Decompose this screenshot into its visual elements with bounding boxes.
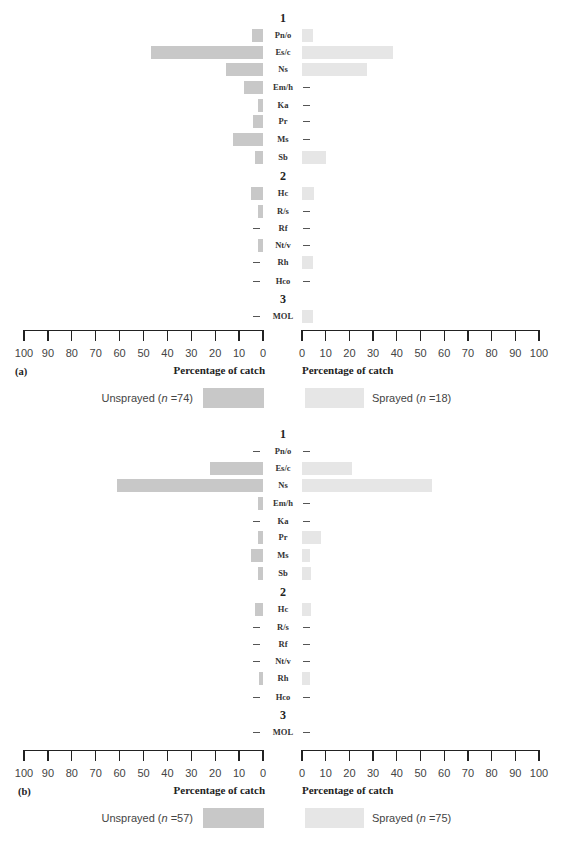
- category-label: Hco: [264, 273, 302, 289]
- bar-unsprayed: [258, 531, 263, 544]
- legend-swatch-sprayed: [305, 388, 364, 408]
- bar-unsprayed: [233, 133, 263, 146]
- x-axis-title-left: Percentage of catch: [174, 364, 265, 376]
- chart-row-rh: Rh: [0, 670, 564, 686]
- category-label: Em/h: [264, 495, 302, 511]
- legend-swatch-unsprayed: [203, 388, 264, 408]
- legend-label-sprayed: Sprayed (n =75): [372, 812, 451, 824]
- bar-sprayed: [302, 310, 313, 323]
- x-axis-left: 1009080706050403020100: [24, 330, 263, 350]
- tick-mark: [95, 330, 96, 341]
- tick-mark: [325, 750, 326, 761]
- zero-dash-sprayed: [303, 521, 310, 522]
- category-label: Ns: [264, 61, 302, 77]
- chart-row-es-c: Es/c: [0, 44, 564, 60]
- zero-dash-sprayed: [303, 105, 310, 106]
- legend-label-sprayed: Sprayed (n =18): [372, 392, 451, 404]
- bar-unsprayed: [244, 81, 263, 94]
- chart-row-rf: Rf: [0, 220, 564, 236]
- tick-mark: [119, 750, 120, 761]
- chart-row-hc: Hc: [0, 601, 564, 617]
- category-label: Sb: [264, 149, 302, 165]
- tick-mark: [491, 330, 492, 341]
- tick-mark: [47, 750, 48, 761]
- legend-prefix: Sprayed (: [372, 812, 420, 824]
- category-label: Em/h: [264, 79, 302, 95]
- category-label: Hc: [264, 185, 302, 201]
- chart-row-hc: Hc: [0, 185, 564, 201]
- tick-mark: [396, 330, 397, 341]
- x-axis-title-right: Percentage of catch: [302, 784, 393, 796]
- chart-panel-b: 1Pn/oEs/cNsEm/hKaPrMsSb2HcR/sRfNt/vRhHco…: [0, 416, 564, 844]
- bar-sprayed: [302, 603, 311, 616]
- category-label: Pn/o: [264, 27, 302, 43]
- legend-swatch-sprayed: [305, 808, 364, 828]
- zero-dash-unsprayed: [253, 644, 260, 645]
- zero-dash-sprayed: [303, 121, 310, 122]
- zero-dash-sprayed: [303, 451, 310, 452]
- tick-mark: [262, 750, 263, 761]
- bar-unsprayed: [252, 29, 263, 42]
- chart-row-mol: MOL: [0, 724, 564, 740]
- category-label: Es/c: [264, 460, 302, 476]
- tick-mark: [71, 750, 72, 761]
- bar-unsprayed: [258, 567, 263, 580]
- x-axis-left: 1009080706050403020100: [24, 750, 263, 770]
- x-axis-right: 0102030405060708090100: [302, 750, 539, 770]
- tick-mark: [372, 330, 373, 341]
- bar-unsprayed: [255, 603, 263, 616]
- bar-unsprayed: [117, 479, 263, 492]
- legend-label-unsprayed: Unsprayed (n =57): [102, 812, 193, 824]
- zero-dash-sprayed: [303, 697, 310, 698]
- chart-row-ns: Ns: [0, 61, 564, 77]
- chart-row-r-s: R/s: [0, 203, 564, 219]
- legend-swatch-unsprayed: [203, 808, 264, 828]
- chart-row-sb: Sb: [0, 565, 564, 581]
- bar-unsprayed: [258, 239, 263, 252]
- zero-dash-unsprayed: [253, 627, 260, 628]
- zero-dash-unsprayed: [253, 451, 260, 452]
- tick-label: 100: [524, 767, 554, 779]
- category-label: Es/c: [264, 44, 302, 60]
- category-label: Hc: [264, 601, 302, 617]
- zero-dash-unsprayed: [253, 316, 260, 317]
- category-label: Rf: [264, 220, 302, 236]
- chart-row-mol: MOL: [0, 308, 564, 324]
- zero-dash-sprayed: [303, 281, 310, 282]
- zero-dash-sprayed: [303, 661, 310, 662]
- bar-unsprayed: [259, 672, 263, 685]
- bar-unsprayed: [255, 151, 263, 164]
- tick-mark: [143, 330, 144, 341]
- legend-label-unsprayed: Unsprayed (n =74): [102, 392, 193, 404]
- tick-mark: [119, 330, 120, 341]
- zero-dash-unsprayed: [253, 228, 260, 229]
- x-axis-right: 0102030405060708090100: [302, 330, 539, 350]
- zero-dash-unsprayed: [253, 661, 260, 662]
- category-label: Rf: [264, 636, 302, 652]
- bar-sprayed: [302, 531, 321, 544]
- zero-dash-sprayed: [303, 644, 310, 645]
- category-label: Ns: [264, 477, 302, 493]
- bar-sprayed: [302, 29, 313, 42]
- category-label: Pr: [264, 529, 302, 545]
- zero-dash-unsprayed: [253, 732, 260, 733]
- category-label: Pn/o: [264, 443, 302, 459]
- chart-row-hco: Hco: [0, 689, 564, 705]
- tick-mark: [444, 330, 445, 341]
- chart-row-es-c: Es/c: [0, 460, 564, 476]
- panel-label: (a): [15, 366, 27, 377]
- chart-row-ms: Ms: [0, 547, 564, 563]
- chart-row-ns: Ns: [0, 477, 564, 493]
- category-label: MOL: [264, 308, 302, 324]
- tick-mark: [167, 750, 168, 761]
- tick-mark: [372, 750, 373, 761]
- chart-panel-a: 1Pn/oEs/cNsEm/hKaPrMsSb2HcR/sRfNt/vRhHco…: [0, 0, 564, 420]
- chart-row-pn-o: Pn/o: [0, 443, 564, 459]
- bar-sprayed: [302, 256, 313, 269]
- category-label: Ms: [264, 547, 302, 563]
- category-label: Nt/v: [264, 237, 302, 253]
- tick-mark: [215, 750, 216, 761]
- tick-mark: [47, 330, 48, 341]
- x-axis-title-right: Percentage of catch: [302, 364, 393, 376]
- group-label-3: 3: [264, 292, 302, 307]
